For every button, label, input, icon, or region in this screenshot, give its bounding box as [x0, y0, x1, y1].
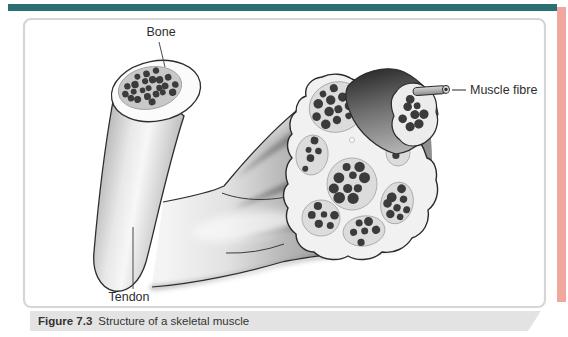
figure-caption-title: Structure of a skeletal muscle — [98, 315, 249, 327]
top-accent-bar — [8, 4, 557, 11]
skeletal-muscle-diagram: Bone Tendon Muscle fibre — [0, 0, 568, 337]
page-edge-strip — [557, 7, 566, 302]
figure-caption: Figure 7.3 Structure of a skeletal muscl… — [30, 311, 541, 331]
figure-caption-number: Figure 7.3 — [38, 315, 92, 327]
center-gap — [349, 137, 354, 142]
tendon-label: Tendon — [108, 290, 149, 304]
muscle-fibre-label: Muscle fibre — [470, 83, 537, 97]
bone-label: Bone — [146, 25, 175, 39]
textbook-page: Bone Tendon Muscle fibre Figure 7.3 Stru… — [0, 0, 568, 337]
